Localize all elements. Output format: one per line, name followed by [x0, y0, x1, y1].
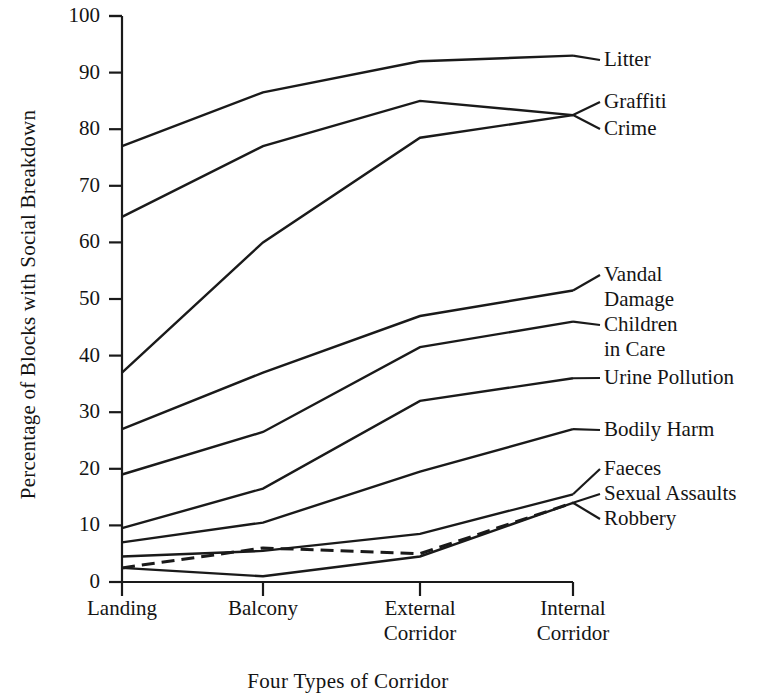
y-tick-label: 50: [44, 288, 100, 309]
y-axis-title: Percentage of Blocks with Social Breakdo…: [16, 15, 41, 595]
x-tick-label-line: External: [335, 596, 505, 621]
y-tick-label: 90: [44, 62, 100, 83]
series-label-litter: Litter: [604, 47, 651, 72]
series-leader-line: [573, 503, 600, 519]
series-label-line: Litter: [604, 47, 651, 72]
x-tick-label-balcony: Balcony: [178, 596, 348, 621]
series-label-bodily-harm: Bodily Harm: [604, 417, 714, 442]
series-line-graffiti: [122, 101, 573, 217]
series-leader-line: [573, 429, 600, 430]
series-line-children-in-care: [122, 322, 573, 475]
series-label-line: Children: [604, 312, 678, 337]
series-line-litter: [122, 56, 573, 147]
y-tick-label: 0: [44, 571, 100, 592]
series-line-robbery: [122, 503, 573, 577]
y-tick-label: 60: [44, 231, 100, 252]
y-tick-label: 40: [44, 345, 100, 366]
series-label-line: Faeces: [604, 456, 661, 481]
series-label-children-in-care: Childrenin Care: [604, 312, 678, 362]
line-chart: 0102030405060708090100 LandingBalconyExt…: [0, 0, 779, 700]
series-label-line: Crime: [604, 116, 657, 141]
x-tick-label-internal-corridor: InternalCorridor: [488, 596, 658, 646]
y-tick-label: 10: [44, 514, 100, 535]
x-tick-label-line: Internal: [488, 596, 658, 621]
x-axis-title: Four Types of Corridor: [122, 669, 574, 694]
series-leader-line: [573, 275, 600, 291]
y-tick-label: 30: [44, 401, 100, 422]
y-tick-label: 20: [44, 458, 100, 479]
series-label-line: Vandal: [604, 262, 674, 287]
y-tick-label: 100: [44, 5, 100, 26]
x-tick-label-line: Corridor: [335, 621, 505, 646]
series-leader-line: [573, 56, 600, 60]
series-label-urine-pollution: Urine Pollution: [604, 365, 734, 390]
series-label-graffiti: Graffiti: [604, 89, 667, 114]
x-tick-label-external-corridor: ExternalCorridor: [335, 596, 505, 646]
series-lines: [122, 56, 600, 577]
series-label-crime: Crime: [604, 116, 657, 141]
series-leader-line: [573, 115, 600, 129]
axes: [109, 16, 573, 596]
x-tick-label-line: Corridor: [488, 621, 658, 646]
series-label-robbery: Robbery: [604, 506, 676, 531]
series-label-line: Urine Pollution: [604, 365, 734, 390]
series-label-line: Bodily Harm: [604, 417, 714, 442]
series-label-line: in Care: [604, 337, 678, 362]
series-leader-line: [573, 469, 600, 494]
series-label-line: Graffiti: [604, 89, 667, 114]
series-label-sexual-assaults: Sexual Assaults: [604, 481, 736, 506]
y-tick-label: 70: [44, 175, 100, 196]
y-tick-label: 80: [44, 118, 100, 139]
series-label-line: Robbery: [604, 506, 676, 531]
series-leader-line: [573, 494, 600, 503]
x-tick-label-line: Balcony: [178, 596, 348, 621]
series-label-faeces: Faeces: [604, 456, 661, 481]
series-leader-line: [573, 102, 600, 115]
series-label-line: Sexual Assaults: [604, 481, 736, 506]
series-leader-line: [573, 322, 600, 325]
series-label-line: Damage: [604, 287, 674, 312]
series-label-vandal-damage: VandalDamage: [604, 262, 674, 312]
